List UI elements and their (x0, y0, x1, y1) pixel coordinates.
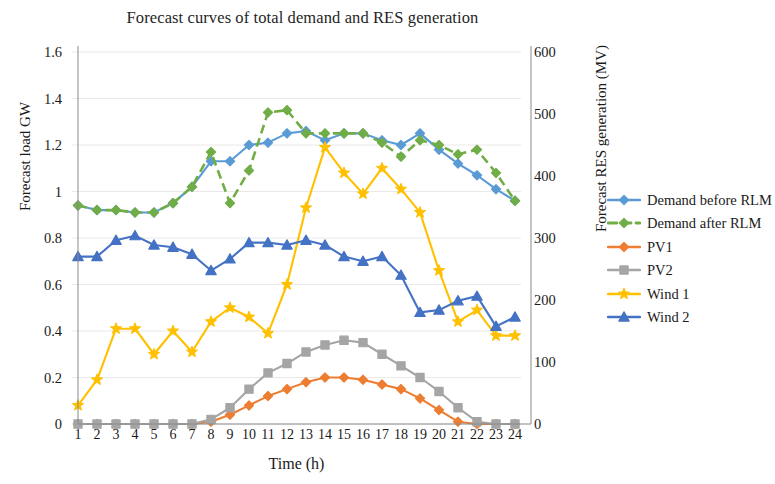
data-marker (129, 323, 140, 334)
legend-swatch-icon (607, 193, 641, 207)
series-demand-before-rlm (73, 126, 519, 217)
data-marker (433, 265, 444, 276)
data-marker (473, 418, 481, 426)
legend-swatch-icon (607, 216, 641, 230)
data-marker (281, 279, 292, 290)
data-marker (618, 288, 629, 299)
data-marker (226, 404, 234, 412)
legend-swatch-icon (607, 287, 641, 301)
data-marker (301, 235, 311, 244)
data-marker (320, 129, 329, 138)
data-marker (205, 316, 216, 327)
legend-label: PV1 (647, 240, 673, 255)
data-marker (91, 374, 102, 385)
chart-figure: Forecast curves of total demand and RES … (0, 0, 775, 484)
data-marker (283, 359, 291, 367)
series-line (78, 131, 515, 212)
data-marker (510, 312, 520, 321)
data-marker (620, 266, 628, 274)
legend-item[interactable]: Demand before RLM (607, 188, 773, 212)
legend-item[interactable]: PV2 (607, 259, 773, 283)
data-marker (415, 394, 424, 403)
legend-label: Wind 2 (647, 310, 690, 325)
data-marker (358, 129, 367, 138)
legend-item[interactable]: PV1 (607, 235, 773, 259)
data-marker (264, 369, 272, 377)
data-marker (453, 417, 462, 426)
data-marker (320, 373, 329, 382)
data-marker (396, 140, 405, 149)
legend-item[interactable]: Wind 2 (607, 306, 773, 330)
data-marker (619, 242, 628, 251)
data-marker (619, 195, 628, 204)
data-marker (472, 145, 481, 154)
data-marker (340, 336, 348, 344)
legend-swatch-icon (607, 240, 641, 254)
data-marker (321, 341, 329, 349)
data-marker (110, 323, 121, 334)
legend-swatch-icon (607, 310, 641, 324)
data-marker (339, 251, 349, 260)
series-demand-after-rlm (73, 106, 519, 217)
chart-legend: Demand before RLMDemand after RLMPV1PV2W… (607, 188, 773, 329)
data-marker (244, 166, 253, 175)
data-marker (454, 404, 462, 412)
series-wind-1 (72, 141, 520, 410)
data-marker (359, 339, 367, 347)
data-marker (377, 251, 387, 260)
data-marker (244, 401, 253, 410)
data-marker (92, 206, 101, 215)
data-marker (452, 316, 463, 327)
data-marker (491, 321, 501, 330)
data-marker (416, 373, 424, 381)
data-marker (339, 373, 348, 382)
data-marker (263, 138, 272, 147)
data-marker (225, 199, 234, 208)
legend-label: Demand after RLM (647, 216, 761, 231)
data-marker (453, 150, 462, 159)
data-marker (301, 378, 310, 387)
data-marker (149, 208, 158, 217)
data-marker (510, 196, 519, 205)
data-marker (339, 129, 348, 138)
series-line (78, 110, 515, 212)
data-marker (397, 362, 405, 370)
data-marker (263, 108, 272, 117)
legend-label: PV2 (647, 263, 673, 278)
data-marker (302, 348, 310, 356)
legend-swatch-icon (607, 263, 641, 277)
data-marker (434, 405, 443, 414)
data-marker (207, 415, 215, 423)
data-marker (130, 230, 140, 239)
data-marker (130, 208, 139, 217)
series-pv2 (74, 336, 519, 428)
data-marker (377, 380, 386, 389)
legend-label: Wind 1 (647, 287, 690, 302)
legend-item[interactable]: Demand after RLM (607, 212, 773, 236)
data-marker (282, 129, 291, 138)
data-marker (111, 206, 120, 215)
legend-item[interactable]: Wind 1 (607, 282, 773, 306)
series-pv1 (73, 373, 519, 429)
data-marker (435, 387, 443, 395)
data-marker (472, 291, 482, 300)
series-line (78, 147, 515, 405)
data-marker (378, 350, 386, 358)
series-line (78, 340, 515, 424)
data-marker (358, 375, 367, 384)
data-marker (396, 385, 405, 394)
legend-label: Demand before RLM (647, 193, 772, 208)
data-marker (263, 392, 272, 401)
data-marker (282, 385, 291, 394)
data-marker (619, 219, 628, 228)
data-marker (245, 385, 253, 393)
